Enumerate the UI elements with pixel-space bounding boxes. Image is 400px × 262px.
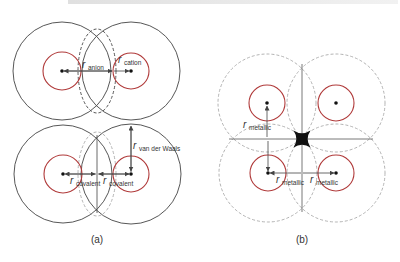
right-nucleus-dot (129, 172, 133, 176)
r-anion-subscript: anion (88, 64, 104, 71)
nucleus-dot-tr (334, 101, 338, 105)
r-anion-symbol: r (82, 59, 86, 70)
ionic-pair: r anion r cation (13, 22, 180, 120)
panel-b-caption: (b) (296, 234, 308, 245)
r-metallic-left-symbol: r (276, 174, 280, 185)
panel-b: r metallic r metallic r metallic (b) (218, 54, 385, 245)
r-covalent-left-symbol: r (70, 175, 74, 186)
covalent-pair: r covalent r covalent r van der Waals (14, 124, 181, 224)
diagram-canvas: r anion r cation r covalent r covalent (0, 0, 400, 262)
anion-nucleus-dot (60, 69, 64, 73)
r-metallic-right-subscript: metallic (316, 179, 339, 186)
panel-a-caption: (a) (91, 234, 103, 245)
nucleus-dot-bl (266, 171, 270, 175)
nucleus-dot-tl (265, 101, 269, 105)
r-covalent-right-subscript: covalent (109, 180, 133, 187)
cation-nucleus-dot (129, 69, 133, 73)
r-metallic-vertical-symbol: r (243, 119, 247, 130)
left-nucleus-dot (61, 172, 65, 176)
nucleus-dot-br (334, 171, 338, 175)
r-metallic-left-subscript: metallic (282, 179, 305, 186)
r-vdw-subscript: van der Waals (139, 145, 181, 152)
panel-a: r anion r cation r covalent r covalent (13, 22, 181, 245)
r-covalent-left-subscript: covalent (76, 180, 100, 187)
r-metallic-vertical-subscript: metallic (249, 124, 272, 131)
r-cation-subscript: cation (124, 59, 142, 66)
r-covalent-right-symbol: r (103, 175, 107, 186)
r-vdw-symbol: r (133, 140, 137, 151)
r-metallic-right-symbol: r (310, 174, 314, 185)
